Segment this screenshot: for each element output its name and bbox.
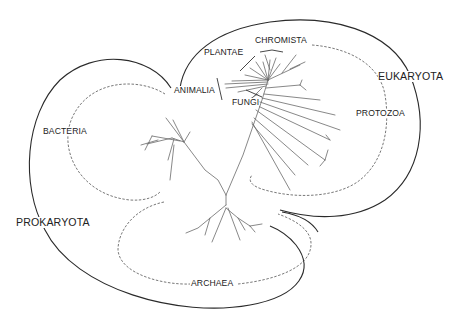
- archaea-boundary-right: [238, 214, 311, 284]
- label-eukaryota: EUKARYOTA: [378, 71, 443, 82]
- eukaryota-branches: [225, 55, 340, 195]
- plantae-bracket: [240, 56, 255, 71]
- label-bacteria: BACTERIA: [43, 127, 87, 136]
- label-chromista: CHROMISTA: [255, 36, 307, 45]
- animalia-bracket: [217, 78, 222, 100]
- label-plantae: PLANTAE: [204, 48, 243, 57]
- label-prokaryota: PROKARYOTA: [16, 217, 90, 228]
- label-protozoa: PROTOZOA: [356, 109, 405, 118]
- label-archaea: ARCHAEA: [191, 279, 233, 288]
- archaea-branches: [186, 195, 262, 242]
- archaea-boundary: [118, 202, 190, 284]
- label-fungi: FUNGI: [232, 98, 259, 107]
- bacteria-branches: [141, 118, 226, 195]
- label-animalia: ANIMALIA: [174, 86, 215, 95]
- tree-of-life-diagram: CHROMISTA PLANTAE ANIMALIA FUNGI EUKARYO…: [0, 0, 458, 326]
- chromista-bracket: [260, 50, 283, 52]
